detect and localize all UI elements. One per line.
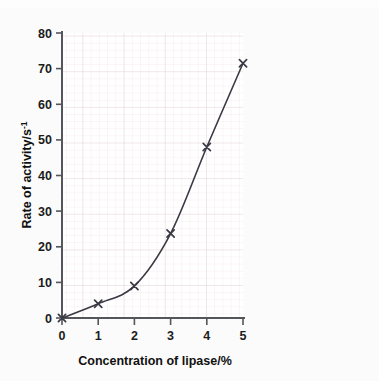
activity-vs-concentration-chart: 80 70 60 50 40 30 20 10 0 0 1 2 3 4 5 Co… [0, 0, 379, 381]
y-tick-label-40: 40 [38, 169, 52, 183]
x-axis-ticks [62, 318, 243, 325]
x-tick-label-4: 4 [203, 329, 210, 343]
y-tick-label-10: 10 [38, 276, 52, 290]
y-tick-label-50: 50 [38, 133, 52, 147]
y-tick-label-80: 80 [38, 27, 52, 41]
x-axis-title: Concentration of lipase/% [78, 354, 232, 368]
x-tick-label-2: 2 [131, 329, 138, 343]
x-tick-label-0: 0 [59, 329, 66, 343]
y-tick-label-20: 20 [38, 240, 52, 254]
y-axis-title-superscript: -1 [19, 121, 29, 129]
major-gridlines [62, 33, 243, 318]
x-tick-label-1: 1 [95, 329, 102, 343]
x-tick-label-5: 5 [240, 329, 247, 343]
x-tick-label-3: 3 [167, 329, 174, 343]
y-tick-label-30: 30 [38, 205, 52, 219]
y-axis-title: Rate of activity/s-1 [19, 121, 34, 228]
figure-container: 80 70 60 50 40 30 20 10 0 0 1 2 3 4 5 Co… [0, 0, 379, 381]
y-tick-label-70: 70 [38, 62, 52, 76]
y-tick-label-60: 60 [38, 98, 52, 112]
y-axis-title-text: Rate of activity/s [20, 129, 34, 228]
y-tick-label-0: 0 [45, 312, 52, 326]
